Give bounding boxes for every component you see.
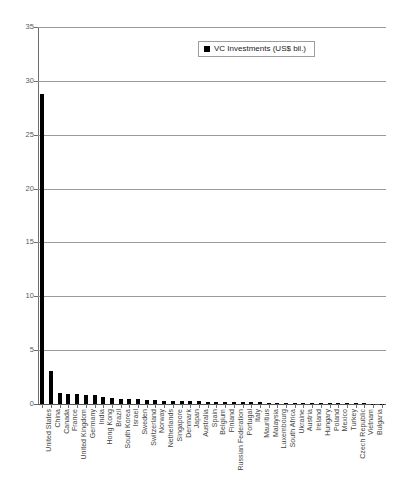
plot-area	[38, 27, 386, 404]
y-axis-tick-label: 5	[4, 346, 34, 354]
x-tick-slot	[351, 404, 360, 408]
x-axis-ticks	[38, 404, 386, 408]
x-axis-tick-mark	[382, 404, 383, 408]
x-axis-tick-mark	[251, 404, 252, 408]
legend-label: VC Investments (US$ bil.)	[214, 44, 306, 53]
x-tick-slot	[82, 404, 91, 408]
x-axis-tick-mark	[321, 404, 322, 408]
x-axis-tick-mark	[164, 404, 165, 408]
x-axis-tick-mark	[347, 404, 348, 408]
x-label-slot: Netherlands	[160, 409, 169, 497]
x-tick-slot	[38, 404, 47, 408]
bar-slot	[282, 27, 291, 404]
bar-slot	[317, 27, 326, 404]
x-tick-slot	[317, 404, 326, 408]
bar	[93, 395, 97, 404]
x-label-slot: Australia	[195, 409, 204, 497]
y-axis-labels: 35302520151050	[0, 0, 34, 500]
x-tick-slot	[55, 404, 64, 408]
x-tick-slot	[212, 404, 221, 408]
bar-slot	[290, 27, 299, 404]
bar-slot	[108, 27, 117, 404]
bar-slot	[177, 27, 186, 404]
x-label-slot: Denmark	[177, 409, 186, 497]
x-axis-tick-mark	[303, 404, 304, 408]
x-tick-slot	[290, 404, 299, 408]
x-label-slot	[377, 409, 386, 497]
bar-slot	[343, 27, 352, 404]
x-tick-slot	[273, 404, 282, 408]
bar-slot	[256, 27, 265, 404]
bar-slot	[125, 27, 134, 404]
x-tick-slot	[73, 404, 82, 408]
x-tick-slot	[47, 404, 56, 408]
x-tick-slot	[203, 404, 212, 408]
bar-slot	[160, 27, 169, 404]
x-label-slot: Mexico	[334, 409, 343, 497]
x-axis-tick-mark	[95, 404, 96, 408]
x-label-slot: Brazil	[108, 409, 117, 497]
y-axis-tick-label: 20	[4, 185, 34, 193]
x-label-slot: Czech Republic	[351, 409, 360, 497]
bar-slot	[273, 27, 282, 404]
bar-slot	[308, 27, 317, 404]
y-axis-tick-label: 35	[4, 23, 34, 31]
x-label-slot: Malaysia	[264, 409, 273, 497]
bar	[66, 394, 70, 404]
x-tick-slot	[247, 404, 256, 408]
x-tick-slot	[238, 404, 247, 408]
x-label-slot: Luxembourg	[273, 409, 282, 497]
x-label-slot: South Africa	[282, 409, 291, 497]
x-tick-slot	[169, 404, 178, 408]
x-label-slot: Bulgaria	[369, 409, 378, 497]
x-label-slot: Israel	[125, 409, 134, 497]
x-axis-tick-mark	[312, 404, 313, 408]
bar-slot	[38, 27, 47, 404]
x-label-slot: Poland	[325, 409, 334, 497]
x-tick-slot	[229, 404, 238, 408]
bar-chart: 35302520151050 United StatesChinaCanadaF…	[0, 0, 407, 500]
bar-slot	[47, 27, 56, 404]
bar-slot	[238, 27, 247, 404]
x-tick-slot	[360, 404, 369, 408]
x-tick-slot	[177, 404, 186, 408]
bar-slot	[151, 27, 160, 404]
y-axis-tick-label: 10	[4, 292, 34, 300]
x-tick-slot	[160, 404, 169, 408]
x-axis-tick-mark	[103, 404, 104, 408]
x-tick-slot	[195, 404, 204, 408]
x-axis-tick-mark	[60, 404, 61, 408]
bar-slot	[73, 27, 82, 404]
x-axis-tick-mark	[86, 404, 87, 408]
bar	[58, 393, 62, 404]
bar-slot	[360, 27, 369, 404]
x-tick-slot	[299, 404, 308, 408]
x-tick-slot	[90, 404, 99, 408]
bar-slot	[221, 27, 230, 404]
x-tick-slot	[64, 404, 73, 408]
x-axis-labels: United StatesChinaCanadaFranceUnited Kin…	[38, 409, 386, 497]
x-label-slot: Turkey	[343, 409, 352, 497]
x-label-slot: Italy	[247, 409, 256, 497]
x-axis-tick-mark	[42, 404, 43, 408]
bar-slot	[64, 27, 73, 404]
x-tick-slot	[142, 404, 151, 408]
y-axis-tick-label: 30	[4, 77, 34, 85]
x-label-slot: Singapore	[169, 409, 178, 497]
x-tick-slot	[282, 404, 291, 408]
x-axis-tick-mark	[234, 404, 235, 408]
x-label-slot: Austria	[299, 409, 308, 497]
x-label-slot: France	[64, 409, 73, 497]
bar-slot	[369, 27, 378, 404]
bar-slot	[186, 27, 195, 404]
x-axis-tick-mark	[243, 404, 244, 408]
bar-slot	[299, 27, 308, 404]
bar-slot	[169, 27, 178, 404]
x-tick-slot	[221, 404, 230, 408]
x-axis-tick-mark	[216, 404, 217, 408]
x-tick-slot	[325, 404, 334, 408]
x-label-slot: Ireland	[308, 409, 317, 497]
bar-slot	[134, 27, 143, 404]
bar-slot	[142, 27, 151, 404]
x-tick-slot	[108, 404, 117, 408]
